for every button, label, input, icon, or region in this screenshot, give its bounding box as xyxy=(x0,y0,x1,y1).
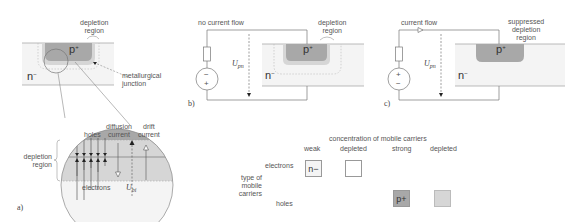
p-plus-sup: + xyxy=(502,44,506,50)
ubi-sub: bi xyxy=(132,187,137,193)
legend-col-strong: strong xyxy=(392,145,411,153)
fig-b-p-plus: p+ xyxy=(303,43,313,55)
figure-c-device xyxy=(455,44,565,86)
fig-b-source-minus: − xyxy=(204,71,209,79)
upn-sub: pn xyxy=(238,63,244,69)
legend-col-weak: weak xyxy=(304,145,320,153)
fig-b-n-minus: n− xyxy=(265,69,275,81)
legend-row-holes: holes xyxy=(276,200,293,208)
fig-a-n-minus: n− xyxy=(27,70,37,82)
zoom-ubi-label: Ubi xyxy=(126,183,136,193)
legend-box-electrons-weak: n− xyxy=(305,160,322,177)
legend-title: concentration of mobile carriers xyxy=(329,135,427,143)
fig-a-side-depletion-label: depletion region xyxy=(18,153,52,169)
legend-col-depleted-1: depleted xyxy=(340,145,367,153)
fig-a-depletion-label: depletion region xyxy=(80,19,108,35)
fig-b-panel-label: b) xyxy=(188,99,195,108)
fig-b-title: no current flow xyxy=(198,19,244,27)
legend-box-holes-strong: p+ xyxy=(393,190,410,207)
fig-c-title: current flow xyxy=(401,19,437,27)
fig-a-junction-label: metallurgical junction xyxy=(122,72,161,88)
legend-box-electrons-depleted xyxy=(345,160,362,177)
fig-c-p-plus: p+ xyxy=(496,43,506,55)
p-plus-sup: + xyxy=(75,44,79,50)
legend-row-header: type of mobile carriers xyxy=(232,174,262,198)
fig-b-upn-label: Upn xyxy=(232,59,244,69)
fig-c-n-minus: n− xyxy=(458,69,468,81)
zoom-holes-label: holes xyxy=(84,131,101,139)
n-minus-sup: − xyxy=(33,71,37,77)
legend-row-electrons: electrons xyxy=(265,162,293,170)
p-plus-sup: + xyxy=(309,44,313,50)
depletion-brace xyxy=(54,140,60,181)
n-minus-sup: − xyxy=(271,70,275,76)
fig-c-source-plus: + xyxy=(396,71,401,79)
figure-b-device xyxy=(262,37,364,86)
fig-a-p-plus: p+ xyxy=(69,43,79,55)
fig-c-source-minus: − xyxy=(396,80,401,88)
zoom-electrons-label: electrons xyxy=(82,184,110,192)
fig-a-panel-label: a) xyxy=(17,203,23,212)
n-minus-sup: − xyxy=(464,70,468,76)
legend-col-depleted-2: depleted xyxy=(430,145,457,153)
zoom-diffusion-label: diffusion current xyxy=(106,123,132,139)
legend-box-holes-depleted xyxy=(434,190,451,207)
fig-b-source-plus: + xyxy=(204,80,209,88)
upn-sub: pn xyxy=(430,63,436,69)
zoom-drift-label: drift current xyxy=(138,123,160,139)
fig-c-upn-label: Upn xyxy=(424,59,436,69)
fig-b-depletion-label: depletion region xyxy=(318,19,346,35)
fig-c-panel-label: c) xyxy=(384,99,390,108)
fig-c-depletion-label: suppressed depletion region xyxy=(508,18,544,42)
